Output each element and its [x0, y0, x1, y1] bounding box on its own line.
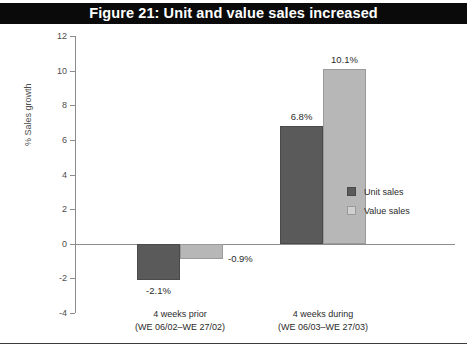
figure-title: Figure 21: Unit and value sales increase…	[0, 3, 467, 24]
category-label: 4 weeks during(WE 06/03–WE 27/03)	[278, 308, 368, 334]
legend-swatch-icon-value-sales	[347, 206, 356, 215]
legend-label-unit-sales: Unit sales	[364, 187, 404, 197]
y-tick-mark	[70, 71, 75, 72]
bar-value-sales[interactable]	[180, 244, 223, 260]
plot-area: -4-2024681012 % Sales growth -2.1%-0.9%6…	[75, 36, 457, 313]
y-tick-mark	[70, 36, 75, 37]
chart-legend: Unit sales Value sales	[347, 182, 410, 220]
legend-item-unit-sales[interactable]: Unit sales	[347, 182, 410, 201]
y-tick-mark	[70, 175, 75, 176]
y-tick-label: 10	[57, 66, 67, 76]
y-tick-label: 8	[62, 100, 67, 110]
y-tick-mark	[70, 209, 75, 210]
bar-unit-sales[interactable]	[280, 126, 323, 244]
y-tick-label: -4	[59, 308, 67, 318]
y-tick-label: 4	[62, 170, 67, 180]
bar-unit-sales[interactable]	[137, 244, 180, 280]
y-tick-mark	[70, 105, 75, 106]
legend-label-value-sales: Value sales	[364, 206, 410, 216]
y-tick-label: 2	[62, 204, 67, 214]
category-label-line2: (WE 06/03–WE 27/03)	[278, 321, 368, 334]
y-tick-mark	[70, 140, 75, 141]
y-axis-spine	[75, 36, 76, 313]
y-tick-label: -2	[59, 273, 67, 283]
footer-rule	[0, 343, 467, 344]
zero-baseline	[75, 244, 455, 245]
category-label-line1: 4 weeks prior	[135, 308, 225, 321]
y-tick-label: 0	[62, 239, 67, 249]
y-tick-label: 6	[62, 135, 67, 145]
legend-item-value-sales[interactable]: Value sales	[347, 201, 410, 220]
category-label: 4 weeks prior(WE 06/02–WE 27/02)	[135, 308, 225, 334]
bar-data-label: 6.8%	[291, 111, 313, 122]
category-label-line1: 4 weeks during	[278, 308, 368, 321]
y-tick-mark	[70, 244, 75, 245]
y-tick-mark	[70, 313, 75, 314]
legend-swatch-icon-unit-sales	[347, 187, 356, 196]
y-tick-mark	[70, 278, 75, 279]
bar-data-label: 10.1%	[331, 54, 358, 65]
figure-container: Figure 21: Unit and value sales increase…	[0, 0, 467, 352]
bar-data-label: -2.1%	[146, 285, 171, 296]
bar-data-label: -0.9%	[228, 253, 253, 264]
y-axis-title: % Sales growth	[23, 83, 33, 146]
y-tick-label: 12	[57, 31, 67, 41]
category-label-line2: (WE 06/02–WE 27/02)	[135, 321, 225, 334]
